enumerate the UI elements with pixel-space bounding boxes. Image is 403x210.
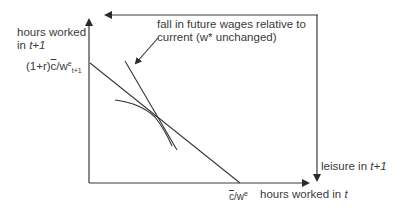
y-axis-label: hours worked in t+1 bbox=[17, 26, 86, 52]
annotation-text: fall in future wages relative to current… bbox=[157, 18, 306, 44]
new-budget-line bbox=[125, 61, 177, 150]
y-intercept-label: (1+r)c/wet+1 bbox=[26, 57, 82, 77]
annotation-pointer bbox=[136, 38, 158, 63]
right-axis-label: leisure in t+1 bbox=[321, 160, 387, 173]
budget-line bbox=[90, 63, 240, 183]
indifference-curve bbox=[115, 100, 172, 146]
x-axis-label: hours worked in t bbox=[260, 188, 348, 201]
x-intercept-label: c/we bbox=[229, 187, 248, 203]
